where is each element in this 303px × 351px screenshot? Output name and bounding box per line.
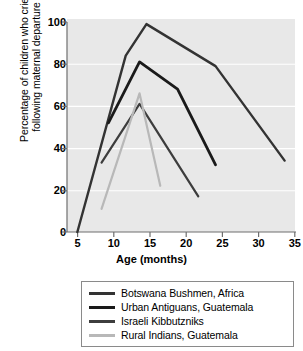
- legend-line-swatch-icon: [89, 292, 115, 295]
- plot-canvas: [0, 0, 303, 268]
- legend-item-israeli-kibbutzniks[interactable]: Israeli Kibbutzniks: [82, 314, 293, 328]
- x-tick-35: 35: [280, 238, 303, 249]
- x-tick-30: 30: [244, 238, 274, 249]
- x-tick-20: 20: [171, 238, 201, 249]
- x-tick-25: 25: [207, 238, 237, 249]
- y-axis-ticks: [62, 22, 67, 232]
- legend-line-swatch-icon: [89, 306, 115, 309]
- x-tick-10: 10: [99, 238, 129, 249]
- legend-label: Botswana Bushmen, Africa: [121, 288, 244, 299]
- x-tick-5: 5: [63, 238, 93, 249]
- line-chart-figure: Percentage of children who cried followi…: [0, 0, 303, 351]
- legend-item-rural-indians[interactable]: Rural Indians, Guatemala: [82, 328, 293, 342]
- chart-legend: Botswana Bushmen, Africa Urban Antiguans…: [81, 281, 294, 347]
- legend-label: Urban Antiguans, Guatemala: [121, 302, 253, 313]
- legend-item-urban-antiguans[interactable]: Urban Antiguans, Guatemala: [82, 300, 293, 314]
- plot-background: [67, 19, 295, 232]
- x-tick-15: 15: [135, 238, 165, 249]
- legend-line-swatch-icon: [89, 320, 115, 323]
- legend-label: Israeli Kibbutzniks: [121, 316, 204, 327]
- legend-item-botswana-bushmen[interactable]: Botswana Bushmen, Africa: [82, 286, 293, 300]
- legend-line-swatch-icon: [89, 334, 115, 337]
- plot-area: Percentage of children who cried followi…: [0, 0, 303, 268]
- legend-label: Rural Indians, Guatemala: [121, 330, 238, 341]
- x-axis-title: Age (months): [0, 253, 303, 265]
